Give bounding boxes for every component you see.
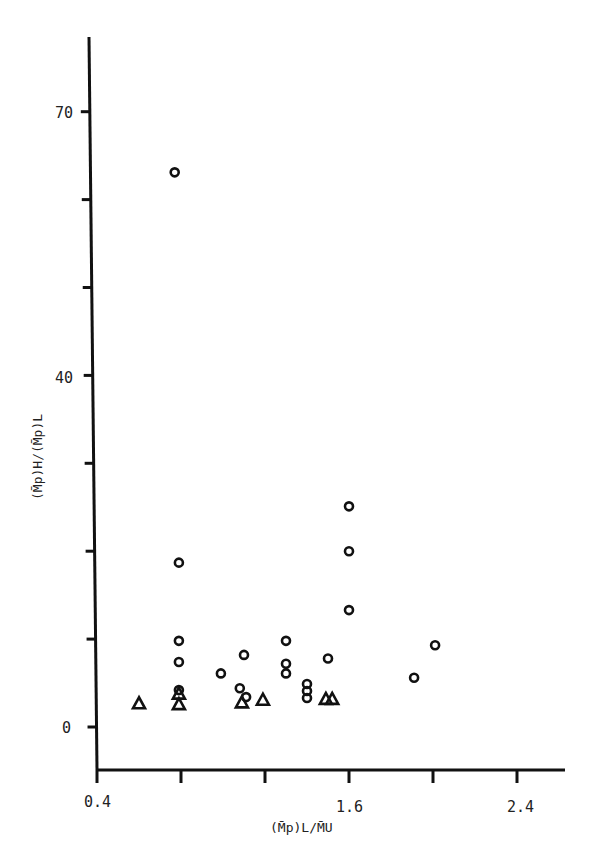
circle-marker	[345, 606, 353, 614]
circle-marker	[217, 669, 225, 677]
circle-marker	[345, 547, 353, 555]
scatter-chart: 70 40 0 0.4 1.6 2.4 (M̄p)L/M̄U (M̄p)H/(M…	[0, 0, 597, 867]
circle-marker	[345, 502, 353, 510]
axes	[89, 37, 565, 770]
y-tick-label-0: 0	[62, 719, 71, 737]
triangle-marker	[133, 697, 145, 708]
y-tick-label-40: 40	[55, 369, 73, 387]
circle-marker	[175, 559, 183, 567]
circle-marker	[282, 637, 290, 645]
circle-marker	[175, 637, 183, 645]
circle-marker	[431, 641, 439, 649]
x-tick-label-0.4: 0.4	[84, 793, 111, 811]
triangle-marker	[257, 694, 269, 705]
data-points	[133, 168, 439, 709]
x-tick-label-1.6: 1.6	[336, 798, 363, 816]
circle-marker	[175, 658, 183, 666]
circle-marker	[282, 669, 290, 677]
circle-marker	[171, 168, 179, 176]
y-tick-label-70: 70	[55, 104, 73, 122]
circle-marker	[303, 694, 311, 702]
x-axis-title: (M̄p)L/M̄U	[270, 820, 333, 835]
circle-marker	[282, 660, 290, 668]
x-tick-label-2.4: 2.4	[507, 798, 534, 816]
triangle-marker	[236, 696, 248, 707]
x-ticks	[97, 770, 517, 783]
circle-marker	[240, 651, 248, 659]
circle-marker	[236, 684, 244, 692]
circle-marker	[410, 674, 418, 682]
y-axis	[89, 37, 97, 770]
y-axis-title: (M̄p)H/(M̄p)L	[30, 414, 45, 500]
circle-marker	[324, 654, 332, 662]
